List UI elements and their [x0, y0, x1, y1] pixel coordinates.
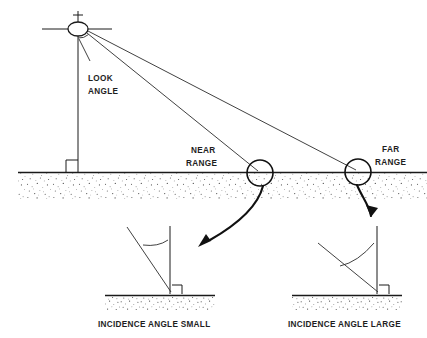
satellite-platform-icon [68, 22, 88, 36]
inset-incidence-angle-large [292, 226, 402, 310]
look-angle-annotation [78, 35, 90, 62]
radar-geometry-diagram: LOOK ANGLE NEAR RANGE FAR RANGE INCIDENC… [0, 0, 427, 338]
look-angle-label-line2: ANGLE [88, 87, 119, 96]
arrowhead [198, 234, 211, 247]
near-range-label-line2: RANGE [186, 159, 218, 168]
inset-right-right-angle-marker-icon [379, 285, 389, 294]
near-range-label-line1: NEAR [191, 146, 216, 155]
inset-right-ground-stipple [292, 296, 402, 310]
inset-left-incident-ray [127, 227, 171, 292]
inset-left-angle-arc-icon [143, 240, 168, 245]
inset-left-right-angle-marker-icon [172, 285, 182, 294]
inset-left-caption: INCIDENCE ANGLE SMALL [98, 320, 210, 329]
far-range-label-line1: FAR [382, 145, 399, 154]
inset-right-angle-arc-icon [340, 243, 374, 266]
far-range-label-line2: RANGE [375, 158, 407, 167]
arrowhead [366, 205, 378, 217]
near-range-beam [87, 33, 258, 171]
far-range-beam [88, 31, 356, 170]
right-angle-marker-icon [66, 160, 78, 172]
look-angle-leader-line [79, 39, 90, 61]
radar-beam-lines [87, 31, 356, 171]
ground-stipple-band [18, 173, 427, 199]
diagram-canvas: LOOK ANGLE NEAR RANGE FAR RANGE INCIDENC… [0, 0, 427, 338]
look-angle-label-line1: LOOK [88, 74, 113, 83]
inset-right-caption: INCIDENCE ANGLE LARGE [288, 320, 401, 329]
inset-left-ground-stipple [105, 296, 215, 310]
inset-right-incident-ray [318, 243, 378, 292]
ground-surface [18, 173, 427, 200]
inset-incidence-angle-small [105, 226, 215, 310]
